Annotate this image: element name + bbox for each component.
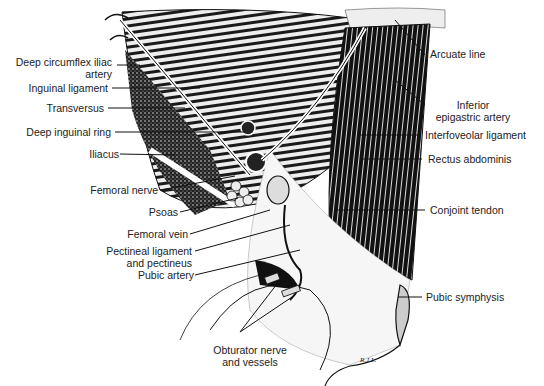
label-inguinal-ligament: Inguinal ligament (0, 82, 108, 94)
label-pubic-symphysis: Pubic symphysis (426, 291, 504, 303)
label-interfoveolar-ligament: Interfoveolar ligament (425, 129, 526, 141)
label-deep-inguinal-ring: Deep inguinal ring (0, 126, 111, 138)
label-conjoint-tendon: Conjoint tendon (430, 204, 504, 216)
label-arcuate-line: Arcuate line (430, 48, 485, 60)
label-transversus: Transversus (0, 102, 104, 114)
label-text: Obturator nerve (190, 344, 310, 356)
label-femoral-vein: Femoral vein (0, 228, 188, 240)
artist-signature: R.J.L. (359, 356, 377, 364)
label-psoas: Psoas (0, 206, 178, 218)
label-text: epigastric artery (418, 111, 528, 123)
label-obturator-nerve-and-vessels: Obturator nerve and vessels (190, 344, 310, 368)
label-iliacus: Iliacus (0, 148, 119, 160)
label-pubic-artery: Pubic artery (0, 269, 194, 281)
label-femoral-nerve: Femoral nerve (0, 184, 158, 196)
label-text: and pectineus (0, 257, 192, 269)
label-text: and vessels (190, 356, 310, 368)
label-text: Pectineal ligament (0, 245, 192, 257)
label-deep-circumflex-iliac-artery: Deep circumflex iliac artery (0, 56, 112, 80)
label-rectus-abdominis: Rectus abdominis (428, 153, 511, 165)
label-text: artery (0, 68, 112, 80)
label-inferior-epigastric-artery: Inferior epigastric artery (418, 99, 528, 123)
label-text: Deep circumflex iliac (0, 56, 112, 68)
label-text: Inferior (418, 99, 528, 111)
label-pectineal-ligament: Pectineal ligament and pectineus (0, 245, 192, 269)
